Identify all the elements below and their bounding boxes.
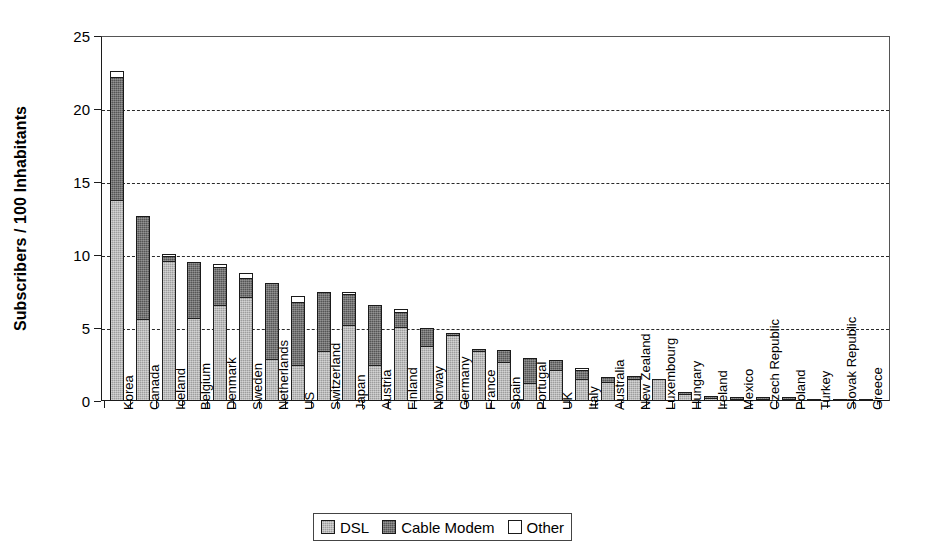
broadband-subscribers-chart: Subscribers / 100 Inhabitants KoreaCanad… — [0, 0, 930, 559]
y-axis-tick — [94, 36, 101, 37]
y-axis-tick-label: 0 — [56, 394, 90, 409]
bar-segment-dsl — [110, 200, 124, 401]
y-axis-tick — [94, 182, 101, 183]
x-axis-label: Spain — [509, 377, 522, 410]
x-axis-label: Norway — [432, 366, 445, 410]
x-axis-label: Canada — [148, 364, 161, 410]
bar-segment-cable — [368, 305, 382, 365]
bar-segment-cable — [549, 360, 563, 370]
bar-segment-cable — [136, 216, 150, 320]
x-axis-label: UK — [561, 392, 574, 410]
x-axis-label: Iceland — [174, 368, 187, 410]
x-axis-label: Denmark — [225, 357, 238, 410]
x-axis-label: Portugal — [535, 362, 548, 410]
bar-segment-cable — [394, 312, 408, 327]
bar-segment-cable — [110, 77, 124, 200]
legend-label: DSL — [340, 519, 369, 536]
legend-label: Other — [527, 519, 565, 536]
x-axis-label: Finland — [406, 367, 419, 410]
x-axis-label: Czech Republic — [768, 319, 781, 410]
x-axis-label: US — [303, 392, 316, 410]
y-axis-title: Subscribers / 100 Inhabitants — [10, 36, 32, 401]
bar-segment-cable — [187, 262, 201, 317]
x-axis-label: Turkey — [819, 371, 832, 410]
y-axis-tick-label: 5 — [56, 321, 90, 336]
x-axis-label: Sweden — [251, 363, 264, 410]
bar-segment-cable — [497, 350, 511, 362]
y-axis-tick — [94, 109, 101, 110]
legend-label: Cable Modem — [401, 519, 494, 536]
legend-item-dsl: DSL — [321, 519, 369, 536]
legend-item-cable: Cable Modem — [382, 519, 494, 536]
y-axis-tick — [94, 255, 101, 256]
x-axis-label: Austria — [380, 370, 393, 410]
bar-korea — [110, 71, 124, 401]
x-axis-label: Italy — [587, 386, 600, 410]
y-axis-tick — [94, 328, 101, 329]
chart-legend: DSLCable ModemOther — [313, 513, 572, 541]
x-axis-label: Slovak Republic — [845, 317, 858, 410]
x-axis-label: France — [484, 370, 497, 410]
x-axis-label: New Zealand — [639, 333, 652, 410]
y-axis-tick — [94, 401, 101, 402]
y-axis-tick-label: 15 — [56, 175, 90, 190]
y-axis-tick-label: 20 — [56, 102, 90, 117]
x-axis-label: Belgium — [199, 363, 212, 410]
x-axis-label: Ireland — [716, 370, 729, 410]
x-axis-tick — [104, 401, 105, 408]
y-axis-tick-label: 10 — [56, 248, 90, 263]
bar-us — [291, 296, 305, 401]
legend-item-other: Other — [508, 519, 565, 536]
bar-segment-cable — [420, 328, 434, 346]
legend-swatch-other-icon — [508, 520, 522, 534]
bar-segment-cable — [213, 267, 227, 305]
bar-segment-cable — [239, 278, 253, 297]
bar-segment-cable — [575, 370, 589, 379]
x-axis-labels: KoreaCanadaIcelandBelgiumDenmarkSwedenNe… — [101, 408, 890, 513]
x-axis-label: Poland — [794, 370, 807, 410]
legend-swatch-dsl-icon — [321, 520, 335, 534]
x-axis-label: Korea — [122, 375, 135, 410]
bar-segment-cable — [291, 302, 305, 365]
x-axis-label: Switzerland — [329, 343, 342, 410]
x-axis-label: Luxembourg — [664, 338, 677, 410]
x-axis-label: Netherlands — [277, 340, 290, 410]
x-axis-label: Greece — [871, 367, 884, 410]
y-axis-tick-label: 25 — [56, 29, 90, 44]
x-axis-label: Mexico — [742, 369, 755, 410]
bar-segment-cable — [342, 294, 356, 325]
x-axis-label: Japan — [354, 375, 367, 410]
x-axis-label: Hungary — [690, 361, 703, 410]
x-axis-label: Germany — [458, 357, 471, 410]
x-axis-label: Australia — [613, 359, 626, 410]
legend-swatch-cable-icon — [382, 520, 396, 534]
